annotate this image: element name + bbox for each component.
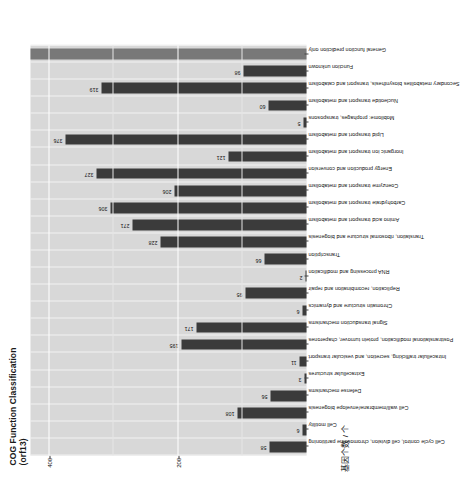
bar-rect [30,48,306,59]
bar-14[interactable] [30,202,306,213]
grid-line-vertical [30,403,306,404]
category-tick [304,394,308,395]
bar-rect [160,236,306,247]
grid-line-vertical [30,164,306,165]
bar-value-label: 11 [290,359,296,365]
category-label: Cell cycle control, cell division, chrom… [308,438,444,444]
category-tick [304,189,308,190]
category-label: Extracellular structures [308,370,364,376]
bar-rect [268,100,307,111]
bar-value-label: 206 [162,188,171,194]
grid-line-vertical [30,129,306,130]
category-label: Cell wall/membrane/envelope biogenesis [308,404,408,410]
bar-value-label: 98 [234,69,240,75]
bar-19[interactable] [30,117,306,128]
bar-13[interactable] [30,219,306,230]
bar-value-label: 171 [184,325,193,331]
category-tick [304,70,308,71]
category-label: Carbohydrate transport and metabolism [308,199,405,205]
grid-line-vertical [30,112,306,113]
bar-rect [101,82,306,93]
category-label: Energy production and conversion [308,165,391,171]
category-tick [304,343,308,344]
bar-18[interactable] [30,134,306,145]
bar-12[interactable] [30,236,306,247]
grid-line-vertical [30,215,306,216]
bar-value-label: 108 [225,410,234,416]
category-tick [304,309,308,310]
chart-title-line-2: (orf13) [18,347,28,465]
category-tick [304,326,308,327]
bar-11[interactable] [30,253,306,264]
value-axis: 200400 [30,455,306,479]
bar-9[interactable] [30,287,306,298]
bar-value-label: 228 [148,239,157,245]
bar-value-label: 2 [299,274,302,280]
category-tick [304,240,308,241]
category-label: General function prediction only [308,46,385,52]
category-tick [304,428,308,429]
category-label: Inorganic ion transport and metabolism [308,148,403,154]
category-tick [304,138,308,139]
bar-rect [174,185,306,196]
bar-17[interactable] [30,151,306,162]
bar-7[interactable] [30,322,306,333]
bar-rect [264,253,306,264]
category-tick [304,121,308,122]
grid-line-vertical [30,454,306,455]
bar-value-label: 60 [259,103,265,109]
bar-22[interactable] [30,65,306,76]
bar-rect [243,65,306,76]
bar-rect [96,168,306,179]
grid-line-horizontal [112,45,113,455]
grid-line-vertical [30,334,306,335]
bar-rect [65,134,306,145]
bar-16[interactable] [30,168,306,179]
grid-line-horizontal [48,45,49,455]
bar-1[interactable] [30,424,306,435]
category-label: Coenzyme transport and metabolism [308,182,398,188]
category-label: Replication, recombination and repair [308,285,399,291]
grid-line-horizontal [241,45,242,455]
category-label: Defense mechanisms [308,387,361,393]
grid-line-vertical [30,147,306,148]
bar-value-label: 5 [297,120,300,126]
bar-rect [245,287,306,298]
bar-value-label: 327 [84,171,93,177]
bar-2[interactable] [30,407,306,418]
bar-23[interactable] [30,48,306,59]
category-tick [304,275,308,276]
bar-6[interactable] [30,339,306,350]
category-label: Chromatin structure and dynamics [308,302,392,308]
category-tick [304,360,308,361]
grid-line-vertical [30,266,306,267]
bar-rect [181,339,306,350]
category-tick [304,411,308,412]
category-label: Intracellular trafficking, secretion, an… [308,353,446,359]
category-tick [304,172,308,173]
category-tick [304,292,308,293]
bar-4[interactable] [30,373,306,384]
bar-5[interactable] [30,356,306,367]
category-tick [304,104,308,105]
value-tick-label: 400 [46,457,53,467]
grid-line-vertical [30,420,306,421]
grid-line-vertical [30,78,306,79]
grid-line-vertical [30,283,306,284]
bar-8[interactable] [30,305,306,316]
category-tick [304,206,308,207]
category-tick [304,155,308,156]
bar-21[interactable] [30,82,306,93]
category-tick [304,258,308,259]
plot-area: 5861085631119517169526622827130620632712… [30,45,306,455]
category-label: RNA processing and modification [308,268,389,274]
category-tick [304,377,308,378]
bar-10[interactable] [30,270,306,281]
chart-title-line-1: COG Function Classification [8,347,18,465]
category-tick [304,445,308,446]
grid-line-vertical [30,437,306,438]
category-tick [304,87,308,88]
bar-rect [237,407,306,418]
